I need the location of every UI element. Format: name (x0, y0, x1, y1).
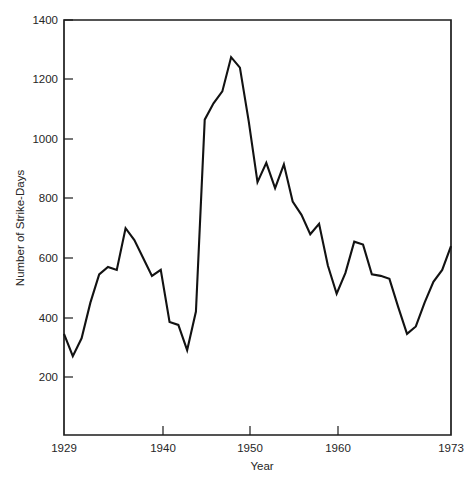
y-tick-label-400: 400 (39, 312, 58, 324)
x-tick-label-1960: 1960 (325, 442, 351, 454)
y-tick-label-800: 800 (39, 192, 58, 204)
x-axis-title: Year (250, 460, 273, 472)
strike-days-line-chart: 200 400 600 800 1000 1200 1400 1929 1940… (0, 0, 473, 478)
y-tick-label-600: 600 (39, 252, 58, 264)
chart-figure: 200 400 600 800 1000 1200 1400 1929 1940… (0, 0, 473, 478)
x-tick-label-1940: 1940 (150, 442, 176, 454)
x-tick-label-1950: 1950 (237, 442, 263, 454)
x-tick-label-1929: 1929 (51, 442, 77, 454)
y-tick-label-1400: 1400 (32, 14, 58, 26)
y-tick-label-200: 200 (39, 371, 58, 383)
x-tick-label-1973: 1973 (438, 442, 464, 454)
y-tick-label-1200: 1200 (32, 73, 58, 85)
chart-background (0, 0, 473, 478)
y-tick-label-1000: 1000 (32, 133, 58, 145)
y-axis-title: Number of Strike-Days (14, 170, 26, 287)
